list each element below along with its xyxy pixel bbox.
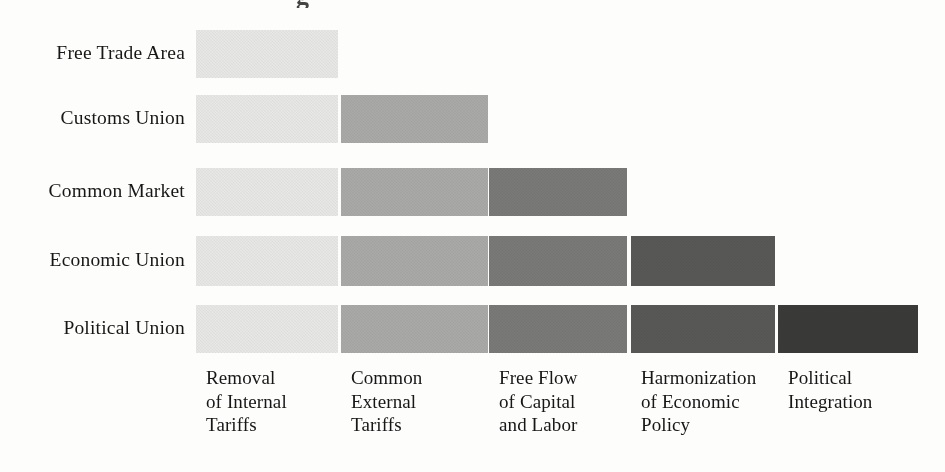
bar-segment xyxy=(778,305,918,353)
bar-segment xyxy=(341,95,488,143)
bar-segment xyxy=(196,168,338,216)
bar-segment xyxy=(341,236,488,286)
column-label: Political Integration xyxy=(788,366,872,413)
bar-segment xyxy=(631,305,775,353)
row-label: Free Trade Area xyxy=(56,42,185,64)
bar-segment xyxy=(196,95,338,143)
bar-segment xyxy=(489,168,627,216)
row-label: Customs Union xyxy=(61,107,186,129)
bar-segment xyxy=(489,305,627,353)
row-label: Political Union xyxy=(63,317,185,339)
column-label: Removal of Internal Tariffs xyxy=(206,366,287,437)
bar-segment xyxy=(196,305,338,353)
bar-segment xyxy=(341,305,488,353)
column-label: Harmonization of Economic Policy xyxy=(641,366,756,437)
row-label: Common Market xyxy=(49,180,185,202)
bar-segment xyxy=(489,236,627,286)
bar-segment xyxy=(631,236,775,286)
bar-segment xyxy=(341,168,488,216)
economic-integration-staircase-figure: g Free Trade AreaCustoms UnionCommon Mar… xyxy=(0,0,945,472)
cropped-title-glyph: g xyxy=(296,0,330,8)
bar-segment xyxy=(196,30,338,78)
column-label: Common External Tariffs xyxy=(351,366,422,437)
row-label: Economic Union xyxy=(50,249,185,271)
bar-segment xyxy=(196,236,338,286)
column-label: Free Flow of Capital and Labor xyxy=(499,366,577,437)
